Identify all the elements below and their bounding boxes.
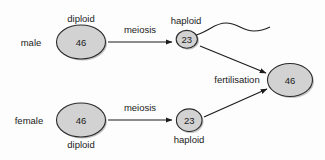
meiosis-label-female: meiosis [124, 102, 156, 113]
male-parent-chromosome-count: 46 [76, 37, 87, 48]
fertilisation-arrow-sperm [200, 46, 266, 73]
life-cycle-diagram: 46 diploid male meiosis 23 haploid 46 di… [0, 0, 325, 160]
female-parent-cell-group: 46 [57, 103, 108, 139]
male-sex-label: male [21, 37, 42, 48]
sperm-cell-icon: 23 [176, 23, 270, 50]
fertilisation-label: fertilisation [214, 74, 259, 85]
female-sex-label: female [15, 115, 44, 126]
female-gamete-ploidy-label: haploid [174, 134, 205, 145]
diagram-canvas: 46 diploid male meiosis 23 haploid 46 di… [0, 0, 325, 160]
female-parent-ploidy-label: diploid [67, 139, 94, 150]
male-gamete-chromosome-count: 23 [182, 34, 193, 45]
egg-cell-icon: 23 [176, 109, 203, 133]
zygote-cell-group: 46 [268, 64, 315, 99]
female-gamete-chromosome-count: 23 [184, 115, 195, 126]
male-parent-ploidy-label: diploid [67, 13, 94, 24]
fertilisation-arrow-egg [204, 89, 267, 117]
male-gamete-ploidy-label: haploid [171, 15, 202, 26]
zygote-chromosome-count: 46 [285, 75, 296, 86]
meiosis-label-male: meiosis [124, 24, 156, 35]
sperm-tail-icon [196, 23, 270, 35]
male-parent-cell-group: 46 [57, 25, 108, 61]
female-parent-chromosome-count: 46 [76, 115, 87, 126]
